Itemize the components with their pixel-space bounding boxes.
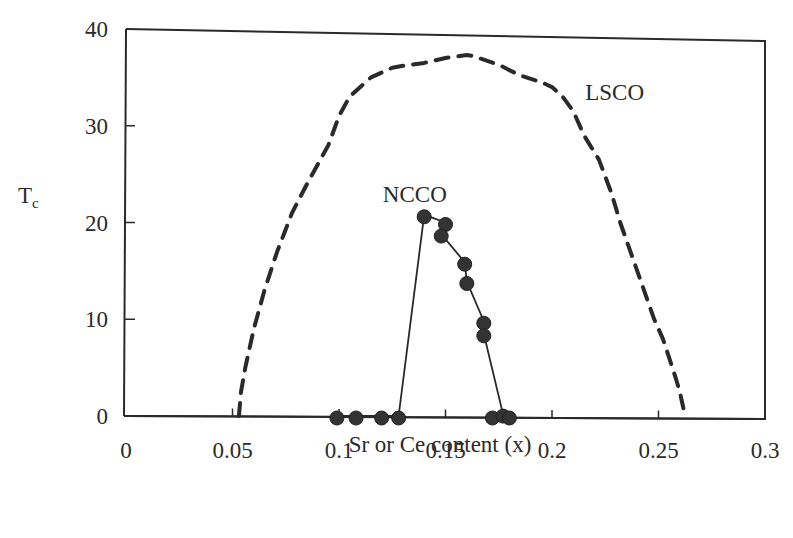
y-tick-label: 30 bbox=[85, 114, 108, 139]
y-axis-title-main: T bbox=[18, 183, 32, 208]
y-tick-label: 40 bbox=[85, 17, 108, 42]
series-label-ncco: NCCO bbox=[383, 182, 447, 207]
x-tick-label: 0.25 bbox=[638, 438, 678, 463]
phase-diagram-chart: 00.050.10.150.20.250.3 010203040 Sr or C… bbox=[0, 0, 793, 538]
ncco-data-point bbox=[477, 316, 491, 330]
y-tick-label: 20 bbox=[85, 211, 108, 236]
ncco-data-point bbox=[458, 257, 472, 271]
x-tick-label: 0.3 bbox=[751, 438, 780, 463]
ncco-data-point bbox=[477, 329, 491, 343]
ncco-data-point bbox=[375, 411, 389, 425]
x-tick-label: 0.05 bbox=[212, 438, 252, 463]
x-tick-label: 0 bbox=[120, 438, 132, 463]
ncco-data-point bbox=[392, 411, 406, 425]
ncco-data-point bbox=[349, 411, 363, 425]
y-axis-title-subscript: c bbox=[32, 195, 39, 211]
series-label-lsco: LSCO bbox=[585, 80, 644, 105]
ncco-data-point bbox=[502, 411, 516, 425]
x-axis-title: Sr or Ce content (x) bbox=[349, 432, 532, 457]
ncco-data-point bbox=[460, 277, 474, 291]
x-tick-label: 0.2 bbox=[538, 438, 567, 463]
ncco-data-point bbox=[330, 411, 344, 425]
ncco-data-point bbox=[417, 210, 431, 224]
ncco-data-point bbox=[434, 229, 448, 243]
y-tick-label: 0 bbox=[97, 404, 109, 429]
y-tick-label: 10 bbox=[85, 307, 108, 332]
